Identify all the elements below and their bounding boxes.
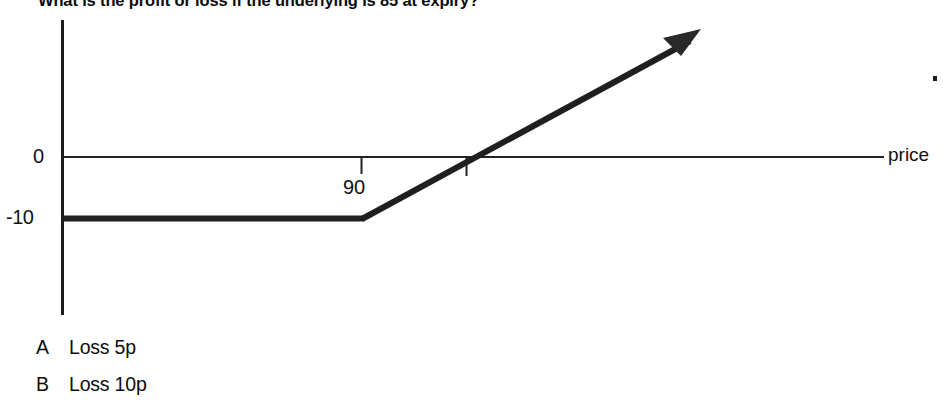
answer-option-a-letter: A	[36, 336, 69, 359]
payoff-chart-svg	[0, 0, 943, 330]
page-canvas: What is the profit or loss if the underl…	[0, 0, 943, 404]
scan-artifact-dot	[933, 76, 937, 81]
payoff-chart: 0 -10 90 price	[0, 0, 943, 330]
answer-option-b-text: Loss 10p	[69, 373, 147, 396]
x-axis-label-strike: 90	[343, 177, 365, 197]
y-axis-label-minus-ten: -10	[6, 207, 33, 227]
answer-option-b[interactable]: BLoss 10p	[36, 373, 456, 399]
x-axis-title: price	[888, 145, 929, 164]
payoff-rising-segment	[362, 41, 690, 219]
answer-option-b-letter: B	[36, 373, 69, 396]
y-axis-label-zero: 0	[33, 146, 44, 166]
answer-option-a[interactable]: ALoss 5p	[36, 336, 456, 362]
answer-option-a-text: Loss 5p	[69, 336, 136, 359]
